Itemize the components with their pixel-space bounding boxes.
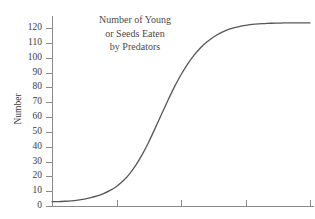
y-axis-label: Number xyxy=(13,79,23,139)
y-axis-ticks xyxy=(46,29,52,207)
y-axis-tick-label: 120 xyxy=(8,23,42,33)
y-axis-tick-label: 40 xyxy=(8,142,42,152)
chart-title-line-1: Number of Young xyxy=(74,13,196,27)
y-axis-tick-label: 110 xyxy=(8,38,42,48)
chart-container: 0102030405060708090100110120 Number of Y… xyxy=(0,0,315,219)
chart-title-line-2: or Seeds Eaten xyxy=(74,27,196,41)
chart-title-line-3: by Predators xyxy=(74,40,196,54)
y-axis-tick-label: 100 xyxy=(8,53,42,63)
x-axis-ticks xyxy=(53,200,311,207)
chart-title: Number of Young or Seeds Eaten by Predat… xyxy=(74,13,196,54)
y-axis-tick-label: 0 xyxy=(8,201,42,211)
y-axis-tick-label: 20 xyxy=(8,171,42,181)
y-axis-tick-label: 90 xyxy=(8,68,42,78)
y-axis-tick-label: 30 xyxy=(8,157,42,167)
y-axis-tick-label: 10 xyxy=(8,186,42,196)
